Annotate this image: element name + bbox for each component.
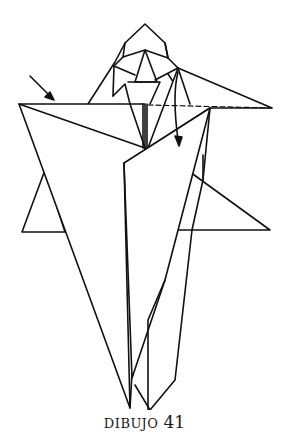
caption-word: DIBUJO — [104, 416, 159, 431]
caption-number: 41 — [164, 412, 186, 432]
figure-caption: DIBUJO 41 — [0, 412, 289, 432]
origami-diagram — [0, 0, 289, 410]
push-arrow — [30, 76, 54, 100]
